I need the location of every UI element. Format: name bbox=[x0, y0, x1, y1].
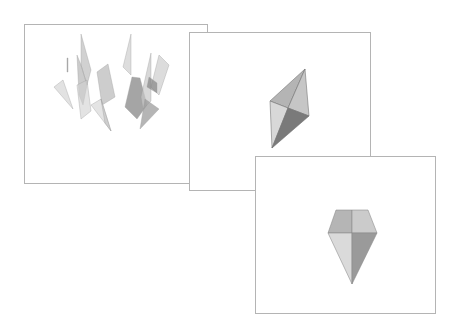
shard bbox=[67, 58, 68, 72]
shard bbox=[97, 64, 115, 105]
crown-left-facet bbox=[328, 210, 352, 233]
shard bbox=[54, 80, 73, 109]
shard bbox=[123, 34, 131, 75]
crown-right-facet bbox=[352, 210, 377, 233]
pavilion-right-facet bbox=[352, 233, 377, 284]
pavilion-left-facet bbox=[328, 233, 352, 284]
shard bbox=[77, 80, 91, 119]
final-gem-drawing bbox=[256, 157, 437, 315]
scattered-shards-drawing bbox=[25, 25, 209, 185]
panel-scattered-shards bbox=[24, 24, 208, 184]
panel-final-gem bbox=[255, 156, 436, 314]
